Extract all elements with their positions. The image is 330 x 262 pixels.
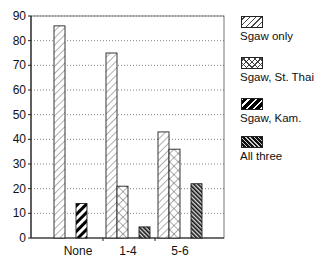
legend-swatch-3	[241, 136, 263, 148]
bar-sgaw-only-1-4	[106, 53, 117, 238]
legend-label: Sgaw, Kam.	[240, 112, 301, 124]
y-tick-label: 90	[13, 9, 27, 23]
bar-all-three-1-4	[139, 227, 150, 238]
plot-area: 0102030405060708090None1-45-6	[13, 9, 224, 258]
y-tick-label: 20	[13, 182, 27, 196]
bar-sgaw-only-none	[54, 26, 65, 238]
bar-sgaw-kam--none	[76, 203, 87, 238]
bar-sgaw-st-thai-1-4	[117, 186, 128, 238]
y-tick-label: 80	[13, 34, 27, 48]
bar-sgaw-only-5-6	[158, 132, 169, 238]
y-tick-label: 40	[13, 132, 27, 146]
y-tick-label: 50	[13, 108, 27, 122]
legend-swatch-0	[241, 16, 263, 28]
y-tick-label: 70	[13, 58, 27, 72]
bar-all-three-5-6	[191, 184, 202, 238]
y-tick-label: 30	[13, 157, 27, 171]
x-tick-label: None	[64, 244, 93, 258]
bar-sgaw-st-thai-5-6	[169, 149, 180, 238]
x-tick-label: 1-4	[119, 244, 137, 258]
y-tick-label: 0	[19, 231, 26, 245]
y-tick-label: 10	[13, 206, 27, 220]
y-tick-label: 60	[13, 83, 27, 97]
legend-swatch-1	[241, 57, 263, 69]
legend-label: All three	[240, 150, 282, 162]
legend-label: Sgaw only	[240, 30, 293, 42]
x-tick-label: 5-6	[171, 244, 189, 258]
legend-swatch-2	[241, 98, 263, 110]
legend-label: Sgaw, St. Thai	[240, 71, 314, 83]
